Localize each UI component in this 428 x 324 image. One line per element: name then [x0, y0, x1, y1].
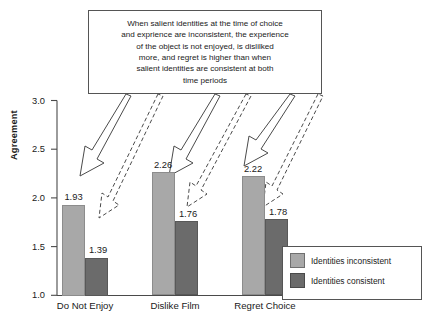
y-tick-label-1-0: 1.0 [19, 290, 45, 300]
y-tick-label-3-0: 3.0 [19, 96, 45, 106]
x-category-label-regret-choice: Regret Choice [234, 300, 295, 311]
bar-value-do-not-enjoy-inconsistent: 1.93 [64, 191, 82, 202]
bar-dislike-film-consistent [175, 221, 198, 295]
chart-legend: Identities inconsistent Identities consi… [282, 246, 422, 300]
bar-value-regret-choice-consistent: 1.78 [269, 206, 287, 217]
bar-value-dislike-film-consistent: 1.76 [179, 208, 197, 219]
bar-dislike-film-inconsistent [152, 172, 175, 295]
bar-value-do-not-enjoy-consistent: 1.39 [89, 244, 107, 255]
y-axis-title: Agreement [9, 110, 19, 160]
legend-item-identities-consistent: Identities consistent [290, 273, 415, 288]
bar-regret-choice-inconsistent [242, 176, 265, 295]
y-tick-label-2-0: 2.0 [19, 193, 45, 203]
annotation-text: When salient identities at the time of c… [121, 18, 288, 87]
y-tick-label-1-5: 1.5 [19, 242, 45, 252]
bar-do-not-enjoy-consistent [85, 258, 108, 296]
legend-swatch-icon-inconsistent [290, 253, 305, 268]
bar-value-dislike-film-inconsistent: 2.26 [154, 159, 172, 170]
x-category-label-do-not-enjoy: Do Not Enjoy [57, 300, 114, 311]
callout-arrow-solid-2 [169, 94, 220, 176]
legend-item-identities-inconsistent: Identities inconsistent [290, 253, 415, 268]
callout-arrow-dashed-3 [263, 94, 323, 207]
callout-arrow-solid-1 [80, 94, 131, 176]
legend-label-consistent: Identities consistent [311, 276, 385, 286]
annotation-callout: When salient identities at the time of c… [88, 10, 322, 94]
legend-label-inconsistent: Identities inconsistent [311, 256, 391, 266]
x-category-label-dislike-film: Dislike Film [150, 300, 199, 311]
y-tick-label-2-5: 2.5 [19, 144, 45, 154]
bar-chart-figure: When salient identities at the time of c… [0, 0, 428, 324]
y-axis-ticks [51, 101, 57, 296]
bar-do-not-enjoy-inconsistent [62, 205, 85, 296]
legend-swatch-icon-consistent [290, 273, 305, 288]
bar-value-regret-choice-inconsistent: 2.22 [244, 163, 262, 174]
